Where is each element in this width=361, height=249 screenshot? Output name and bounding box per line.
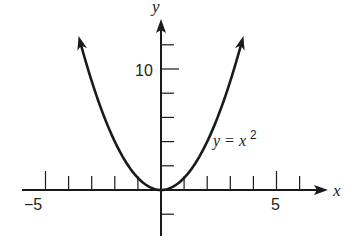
x-tick-label-5: 5 xyxy=(271,196,280,213)
x-axis-label: x xyxy=(332,181,341,200)
equation-label: y = x 2 xyxy=(211,128,257,150)
y-tick-label-10: 10 xyxy=(135,62,153,79)
axes xyxy=(22,19,328,236)
y-axis-label: y xyxy=(150,0,160,16)
equation-exponent: 2 xyxy=(250,128,257,142)
equation-base: y = x xyxy=(211,132,246,150)
ticks xyxy=(46,45,300,214)
parabola-chart: y x 10 −5 5 y = x 2 xyxy=(0,0,361,249)
x-tick-label-neg5: −5 xyxy=(24,196,42,213)
